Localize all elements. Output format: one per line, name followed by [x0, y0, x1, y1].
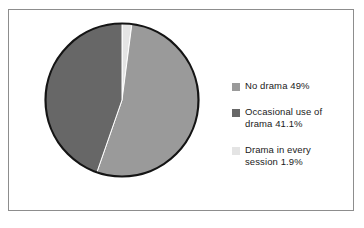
legend-item-occasional-drama[interactable]: Occasional use of drama 41.1% — [232, 106, 350, 131]
pie-svg — [43, 21, 201, 179]
legend-item-every-session[interactable]: Drama in every session 1.9% — [232, 144, 350, 169]
legend-swatch-every-session — [232, 147, 240, 155]
pie-chart-figure: No drama 49% Occasional use of drama 41.… — [0, 0, 364, 228]
pie-chart-graphic — [43, 21, 201, 179]
legend-swatch-no-drama — [232, 83, 240, 91]
legend-label-occasional-drama: Occasional use of drama 41.1% — [245, 106, 322, 131]
chart-legend: No drama 49% Occasional use of drama 41.… — [232, 80, 350, 182]
legend-label-every-session: Drama in every session 1.9% — [245, 144, 311, 169]
legend-swatch-occasional-drama — [232, 109, 240, 117]
legend-label-no-drama: No drama 49% — [245, 80, 310, 93]
legend-item-no-drama[interactable]: No drama 49% — [232, 80, 350, 93]
